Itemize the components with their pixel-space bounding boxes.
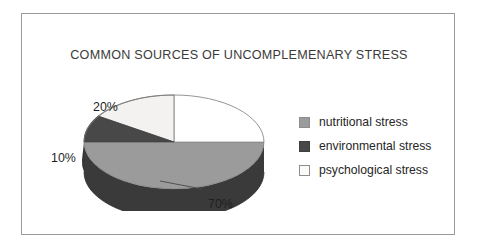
chart-frame: COMMON SOURCES OF UNCOMPLEMENARY STRESS [21, 13, 455, 235]
legend-label-psychological: psychological stress [319, 163, 428, 177]
legend-swatch-psychological [299, 165, 310, 176]
legend-item-psychological[interactable]: psychological stress [299, 159, 474, 181]
chart-title: COMMON SOURCES OF UNCOMPLEMENARY STRESS [22, 48, 456, 62]
pie-chart [42, 86, 287, 211]
legend-label-nutritional: nutritional stress [319, 115, 408, 129]
pie-label-psychological: 20% [93, 100, 118, 114]
pie-label-environmental: 10% [51, 151, 76, 165]
pie-chart-svg [42, 86, 287, 211]
pie-side-wall-environmental [82, 142, 84, 172]
legend-swatch-nutritional [299, 117, 310, 128]
legend-item-nutritional[interactable]: nutritional stress [299, 111, 474, 133]
legend-label-environmental: environmental stress [319, 139, 431, 153]
legend-item-environmental[interactable]: environmental stress [299, 135, 474, 157]
chart-legend: nutritional stress environmental stress … [299, 111, 474, 183]
legend-swatch-environmental [299, 141, 310, 152]
pie-label-nutritional: 70% [208, 197, 233, 211]
